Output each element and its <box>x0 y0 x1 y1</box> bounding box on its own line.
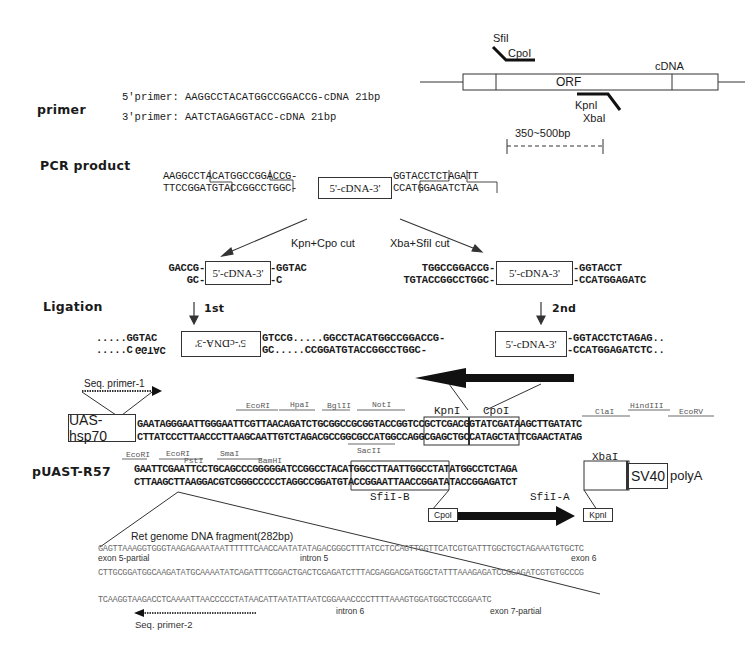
frag2-cdna-insert: 5'-cDNA-3' <box>496 261 573 285</box>
row1-site-overlines <box>236 410 714 416</box>
site-label-sfii: SfiI <box>493 32 509 44</box>
seq-primer-1-arrow <box>82 386 162 415</box>
pcr-left-bottom: TTCCGGATGTACCGGCCTGGC- <box>163 182 297 194</box>
sfii-a-label: SfiI-A <box>530 491 570 503</box>
frag2-left-bottom: TGTACCGGCCTGGC- <box>378 274 495 286</box>
frag1-left-bottom: GC- <box>145 274 205 286</box>
sv40-box: SV40 <box>628 463 668 489</box>
forward-primer: 5'primer: AAGGCCTACATGGCCGGACCG-cDNA 21b… <box>122 91 380 103</box>
faded-caption <box>230 652 550 658</box>
site-clai: ClaI <box>595 407 614 416</box>
lig-mid-top: GTCCG.....GGCCTACATGGCCGGACCG- <box>262 332 445 344</box>
lig-insert-1-reversed: 5'-cDNA-3' <box>181 331 261 357</box>
site-hpai: HpaI <box>290 400 309 409</box>
site-ecorv: EcoRV <box>679 407 703 416</box>
pcr-cdna-insert: 5'-cDNA-3' <box>318 177 392 199</box>
vector-row2-top: GAATTCGAATTCCTGCAGCCCGGGGGATCCGGCCTACATG… <box>134 463 517 475</box>
label-exon6: exon 6 <box>571 553 597 563</box>
vector-row2-bottom: CTTAAGCTTAAGGACGTCGGGCCCCCTAGGCCGGATGTAC… <box>134 476 517 488</box>
site-ecori-2: EcoRI <box>126 450 150 459</box>
label-exon5: exon 5-partial <box>98 553 150 563</box>
genome-line-3: TCAAGGTAAGACCTCAAAATTAACCCCCTATAACATTAAT… <box>98 595 491 605</box>
frag2-right-bottom: -CCATGGAGATC <box>573 274 646 286</box>
kpni-box: KpnI <box>583 508 613 522</box>
lig-mid-bottom: GC.....CCGGATGTACCGGCCTGGC- <box>262 344 427 356</box>
genome-fragment-lines <box>100 492 600 594</box>
cut-label-kpn-cpo: Kpn+Cpo cut <box>291 237 355 249</box>
sfii-b-label: SfiI-B <box>370 491 410 503</box>
seq-primer-1-label: Seq. primer-1 <box>84 378 145 389</box>
cpo-kpn-arrow <box>458 506 575 526</box>
uas-hsp70-box: UAS-hsp70 <box>68 414 136 442</box>
site-label-xbai: XbaI <box>583 112 606 124</box>
cut-label-xba-sfi: Xba+SfiI cut <box>390 237 450 249</box>
size-range-label: 350~500bp <box>515 127 570 139</box>
vector-row1-bottom: CTTATCCCTTAACCCTTAAGCAATTGTCTAGACGCCGGCG… <box>137 431 582 443</box>
section-vector: pUAST-R57 <box>32 464 111 479</box>
seq-primer-2-arrow <box>134 609 257 617</box>
label-exon7: exon 7-partial <box>490 606 542 616</box>
lig-left-top: .....GGTAC <box>96 332 157 344</box>
ligation-step-arrows <box>190 302 545 324</box>
site-ecori-1: EcoRI <box>246 401 270 410</box>
orf-label: ORF <box>556 75 581 89</box>
lig-right-top: -GGTACCTCTAGAG.. <box>567 332 665 344</box>
seq-primer-2-label: Seq. primer-2 <box>135 619 193 630</box>
ligation-step-1: 1st <box>204 302 224 315</box>
site-noti: NotI <box>372 400 391 409</box>
insert-orientation-arrow <box>415 368 574 410</box>
site-label-kpni: KpnI <box>575 99 598 111</box>
section-ligation: Ligation <box>43 299 103 314</box>
pcr-left-top: AAGGCCTACATGGCCGGACCG- <box>163 170 297 182</box>
cdna-label: cDNA <box>655 60 684 72</box>
genome-title: Ret genome DNA fragment(282bp) <box>131 530 293 542</box>
section-primer: primer <box>37 102 86 117</box>
cdna-map <box>420 74 745 90</box>
lig-insert-2: 5'-cDNA-3' <box>495 331 567 357</box>
site-cpoi-vector: CpoI <box>483 405 509 417</box>
label-intron6: intron 6 <box>336 606 364 616</box>
site-hindiii: HindIII <box>630 401 664 410</box>
frag1-right-bottom: -C <box>270 274 282 286</box>
frag1-cdna-insert: 5'-cDNA-3' <box>205 261 271 285</box>
frag1-left-top: GACCG- <box>145 262 205 274</box>
lig-left-bottom-rev: GGTAC <box>135 344 166 356</box>
site-label-cpoi: CpoI <box>508 47 531 59</box>
cpoi-box: CpoI <box>428 508 458 522</box>
label-intron5: intron 5 <box>300 553 328 563</box>
section-pcr-product: PCR product <box>40 158 131 173</box>
frag1-right-top: -GGTAC <box>270 262 307 274</box>
pcr-right-top: GGTACCTCTAGATT <box>393 170 478 182</box>
site-bglii: BglII <box>327 401 351 410</box>
site-kpni-vector: KpnI <box>434 405 460 417</box>
polya-label: polyA <box>670 468 703 483</box>
site-xbai-vector: XbaI <box>592 451 618 463</box>
site-smai: SmaI <box>220 449 239 458</box>
pcr-right-bottom: CCATGGAGATCTAA <box>393 182 478 194</box>
site-sacii: SacII <box>357 446 381 455</box>
vector-row1-top: GAATAGGGAATTGGGAATTCGTTAACAGATCTGCGGCCGC… <box>137 418 582 430</box>
frag2-left-top: TGGCCGGACCG- <box>378 262 495 274</box>
lig-left-bottom: .....C <box>96 344 133 356</box>
genome-line-2: CTTGCGGATGGCAAGATATGCAAAATATCAGATTTCGGAC… <box>98 568 584 578</box>
ligation-step-2: 2nd <box>552 302 576 315</box>
lig-right-bottom: -CCATGGAGATCTC.. <box>567 344 665 356</box>
frag2-right-top: -GGTACCT <box>573 262 622 274</box>
reverse-primer: 3'primer: AATCTAGAGGTACC-cDNA 21bp <box>122 111 336 123</box>
lig-insert-1-label: 5'-cDNA-3' <box>195 338 246 350</box>
genome-line-1: GAGTTAAAGGTGGGTAAGAGAAATAATTTTTTCAACCAAT… <box>98 544 584 554</box>
